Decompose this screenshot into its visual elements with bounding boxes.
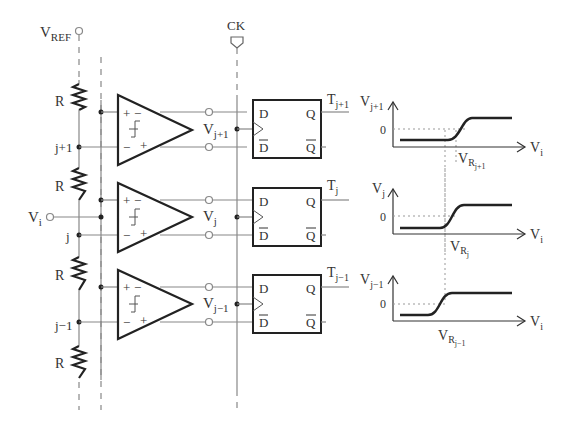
vi-input-label: Vi [28,209,42,228]
svg-text:+: + [123,280,130,295]
resistor-3 [73,257,85,290]
svg-text:0: 0 [380,297,386,311]
resistor-4-label: R [55,356,65,371]
transfer-plot-j-minus-1: Vj−1 0 Vi VRj−1 [360,272,543,348]
svg-text:0: 0 [380,210,386,224]
svg-text:Q: Q [306,140,316,155]
svg-text:Vi: Vi [530,140,543,158]
svg-text:D: D [259,228,268,243]
svg-text:Vj: Vj [372,181,385,199]
svg-text:Q: Q [306,194,316,209]
svg-text:Q: Q [306,106,316,121]
svg-text:+: + [140,138,147,153]
transfer-plot-j: Vj 0 Vi VRj [372,181,543,259]
flash-adc-diagram: VREF R R R R j+1 j j−1 Vi CK + − − + [0,0,579,433]
clock-terminal [231,37,243,48]
svg-text:Vi: Vi [530,314,543,332]
svg-text:VRj: VRj [450,239,469,259]
svg-text:Q: Q [306,281,316,296]
svg-text:−: − [123,228,130,243]
svg-text:+: + [140,226,147,241]
svg-text:D: D [259,281,268,296]
vref-label: VREF [40,24,71,43]
resistor-3-label: R [55,268,65,283]
comparator-out-label: Vj [203,208,217,227]
stage-j: + − − + Vj D D Q Q Tj [79,178,349,252]
svg-text:0: 0 [380,123,386,137]
svg-text:Vj+1: Vj+1 [360,94,384,112]
transfer-plot-j-plus-1: Vj+1 0 Vi VRj+1 [360,94,543,171]
comparator-out-label: Vj−1 [203,295,229,314]
node-j-minus-1-label: j−1 [54,318,72,333]
svg-text:−: − [134,106,141,121]
resistor-1 [73,84,85,110]
stage-j-plus-1: + − − + Vj+1 D D Q Q Tj+1 [79,92,349,165]
vi-terminal [47,214,54,221]
resistor-1-label: R [55,94,65,109]
svg-text:Vi: Vi [530,227,543,245]
svg-text:D: D [259,106,268,121]
svg-text:D: D [259,140,268,155]
latch-output-label: Tj−1 [327,265,349,283]
svg-text:Q: Q [306,315,316,330]
svg-text:VRj−1: VRj−1 [438,328,466,348]
svg-text:+: + [123,106,130,121]
node-j-label: j [65,229,70,244]
svg-text:D: D [259,194,268,209]
svg-text:+: + [140,313,147,328]
svg-text:−: − [123,140,130,155]
svg-text:−: − [123,315,130,330]
node-j-plus-1-label: j+1 [54,140,72,155]
resistor-2-label: R [55,179,65,194]
svg-text:−: − [134,193,141,208]
svg-text:−: − [134,280,141,295]
svg-text:D: D [259,315,268,330]
resistor-2 [73,168,85,200]
comparator-out-label: Vj+1 [203,121,229,140]
vref-terminal [76,28,83,35]
resistor-4 [73,346,85,378]
svg-text:Q: Q [306,228,316,243]
latch-output-label: Tj [327,178,338,196]
svg-text:Vj−1: Vj−1 [360,272,384,290]
svg-text:+: + [123,193,130,208]
clock-label: CK [227,18,246,33]
stage-j-minus-1: + − − + Vj−1 D D Q Q Tj−1 [79,265,349,339]
latch-output-label: Tj+1 [327,92,349,110]
svg-text:VRj+1: VRj+1 [458,151,486,171]
